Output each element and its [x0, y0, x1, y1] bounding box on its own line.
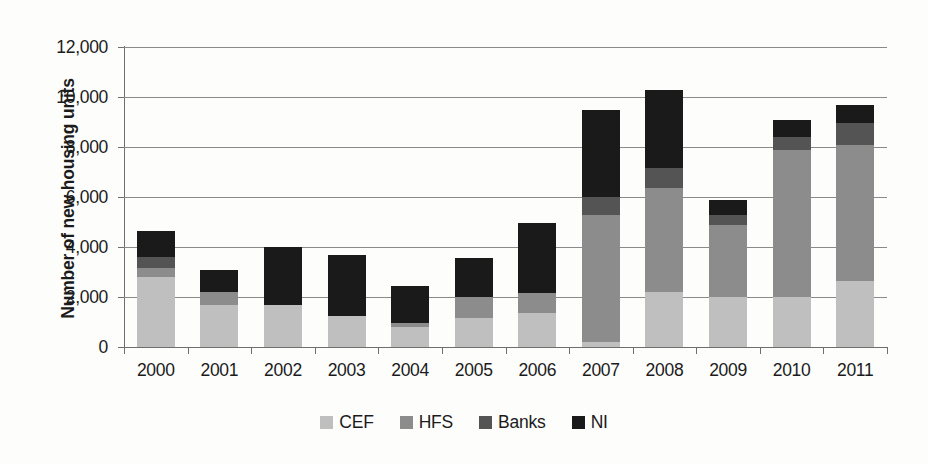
x-axis-tick-label-2003: 2003 [317, 360, 377, 381]
bar-stack [137, 231, 175, 347]
bar-segment-cef-2001 [200, 305, 238, 348]
legend-label: CEF [339, 412, 373, 433]
x-axis-tick-label-2011: 2011 [825, 360, 885, 381]
x-axis-tick-label-2006: 2006 [507, 360, 567, 381]
bar-segment-hfs-2000 [137, 268, 175, 277]
x-axis-tick-mark [442, 347, 443, 354]
bar-segment-banks-2010 [773, 137, 811, 150]
bar-segment-hfs-2009 [709, 225, 747, 298]
bar-segment-banks-2009 [709, 215, 747, 225]
bar-segment-hfs-2011 [836, 145, 874, 281]
legend-label: HFS [419, 412, 453, 433]
y-axis-tick-label: 8,000 [66, 137, 108, 158]
legend-item-hfs[interactable]: HFS [400, 412, 453, 433]
bar-segment-hfs-2001 [200, 292, 238, 305]
x-axis-tick-label-2010: 2010 [762, 360, 822, 381]
x-axis-tick-mark [633, 347, 634, 354]
bar-segment-ni-2003 [328, 255, 366, 316]
bar-segment-ni-2008 [645, 90, 683, 169]
bar-stack [200, 270, 238, 348]
x-axis-tick-mark [887, 347, 888, 354]
bar-segment-cef-2009 [709, 297, 747, 347]
bar-segment-cef-2004 [391, 327, 429, 347]
bar-segment-banks-2008 [645, 168, 683, 188]
bar-segment-banks-2007 [582, 197, 620, 215]
legend-label: Banks [498, 412, 546, 433]
bar-stack [645, 90, 683, 348]
y-axis-tick-label: 4,000 [66, 237, 108, 258]
y-axis-tick-labels: 12,00010,0008,0006,0004,0002,0000 [0, 0, 118, 464]
bar-segment-cef-2008 [645, 292, 683, 347]
legend-item-cef[interactable]: CEF [320, 412, 373, 433]
stacked-bar-chart: Number of new housing units 12,00010,000… [0, 0, 928, 464]
x-axis-tick-mark [378, 347, 379, 354]
bar-segment-ni-2009 [709, 200, 747, 215]
x-axis-ticks [124, 347, 887, 354]
x-axis-tick-label-2007: 2007 [571, 360, 631, 381]
bar-segment-ni-2001 [200, 270, 238, 293]
legend-item-ni[interactable]: NI [572, 412, 608, 433]
bar-stack [264, 247, 302, 347]
x-axis-tick-mark [124, 347, 125, 354]
bar-stack [582, 110, 620, 348]
y-axis-tick-label: 0 [99, 337, 108, 358]
bar-segment-hfs-2008 [645, 188, 683, 292]
x-axis-tick-mark [188, 347, 189, 354]
x-axis-tick-label-2009: 2009 [698, 360, 758, 381]
bar-segment-cef-2010 [773, 297, 811, 347]
bar-segment-cef-2000 [137, 277, 175, 347]
legend-label: NI [591, 412, 608, 433]
x-axis-tick-mark [506, 347, 507, 354]
plot-area [124, 47, 887, 347]
x-axis-tick-label-2001: 2001 [189, 360, 249, 381]
bar-segment-cef-2002 [264, 305, 302, 348]
bar-stack [773, 120, 811, 348]
bar-stack [836, 105, 874, 348]
x-axis-tick-label-2000: 2000 [126, 360, 186, 381]
bar-segment-ni-2004 [391, 286, 429, 324]
x-axis-tick-mark [696, 347, 697, 354]
y-axis-tick-label: 10,000 [56, 87, 108, 108]
bars-layer [124, 47, 887, 347]
bar-segment-ni-2006 [518, 223, 556, 293]
bar-stack [391, 286, 429, 347]
bar-segment-ni-2000 [137, 231, 175, 257]
chart-legend: CEFHFSBanksNI [0, 412, 928, 433]
x-axis-tick-label-2002: 2002 [253, 360, 313, 381]
bar-segment-ni-2007 [582, 110, 620, 198]
bar-segment-ni-2002 [264, 247, 302, 305]
y-axis-tick-label: 12,000 [56, 37, 108, 58]
bar-segment-ni-2011 [836, 105, 874, 124]
bar-segment-banks-2011 [836, 123, 874, 144]
bar-stack [709, 200, 747, 348]
bar-segment-hfs-2010 [773, 150, 811, 298]
bar-stack [328, 255, 366, 348]
x-axis-tick-label-2005: 2005 [444, 360, 504, 381]
bar-segment-cef-2003 [328, 316, 366, 347]
bar-segment-ni-2010 [773, 120, 811, 138]
legend-swatch-icon [572, 416, 585, 429]
bar-segment-cef-2005 [455, 318, 493, 347]
bar-segment-cef-2011 [836, 281, 874, 347]
x-axis-tick-mark [315, 347, 316, 354]
x-axis-tick-mark [569, 347, 570, 354]
x-axis-tick-mark [823, 347, 824, 354]
bar-segment-cef-2006 [518, 313, 556, 347]
bar-segment-banks-2000 [137, 257, 175, 268]
x-axis-tick-mark [251, 347, 252, 354]
y-axis-tick-label: 6,000 [66, 187, 108, 208]
bar-stack [455, 258, 493, 347]
x-axis-tick-label-2008: 2008 [634, 360, 694, 381]
bar-segment-ni-2005 [455, 258, 493, 297]
legend-item-banks[interactable]: Banks [479, 412, 546, 433]
x-axis-tick-labels: 2000200120022003200420052006200720082009… [124, 360, 887, 388]
bar-segment-hfs-2006 [518, 293, 556, 313]
bar-segment-hfs-2005 [455, 297, 493, 318]
x-axis-tick-mark [760, 347, 761, 354]
legend-swatch-icon [479, 416, 492, 429]
legend-swatch-icon [320, 416, 333, 429]
legend-swatch-icon [400, 416, 413, 429]
x-axis-tick-label-2004: 2004 [380, 360, 440, 381]
bar-segment-hfs-2007 [582, 215, 620, 343]
bar-stack [518, 223, 556, 347]
